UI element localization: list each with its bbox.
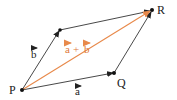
label-p: P [9,83,16,97]
label-r: R [157,3,165,17]
vector-b-right-arrow [114,12,151,73]
label-sum-b: b [84,43,90,55]
point-s [58,28,62,32]
label-sum-plus: + [73,43,79,55]
vector-a-top-arrow [60,11,150,30]
label-vector-a: a [75,85,80,97]
label-sum-a: a [65,43,70,55]
point-q [112,71,116,75]
point-r [150,8,154,12]
label-vector-b: b [31,48,37,60]
vector-parallelogram-diagram: P Q R b a a + b [0,0,177,100]
label-q: Q [117,76,126,90]
point-p [20,88,24,92]
vector-b-arrow [22,31,59,90]
